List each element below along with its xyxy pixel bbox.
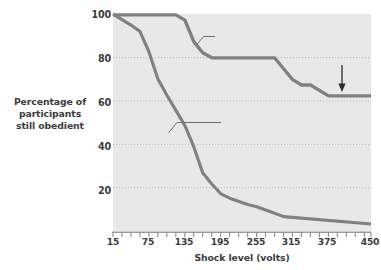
chart-figure: Percentage of participants still obedien…: [0, 0, 381, 270]
plot-background: [113, 14, 371, 231]
chart-plot-svg: [0, 0, 381, 270]
